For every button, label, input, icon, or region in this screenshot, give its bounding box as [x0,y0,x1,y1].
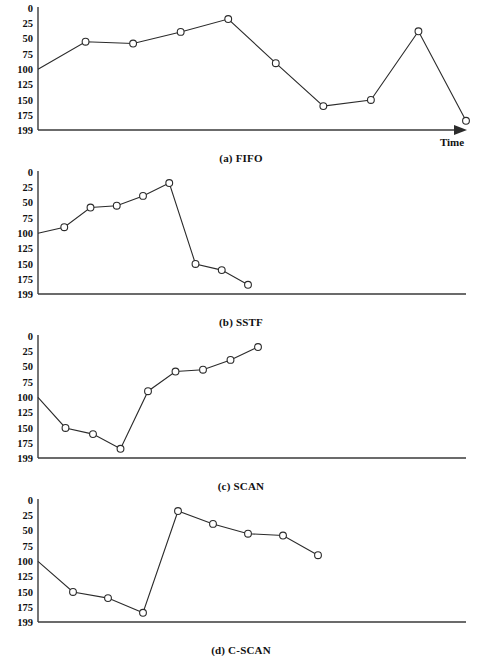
y-tick-label: 0 [28,3,33,14]
y-tick-label: 150 [17,95,33,106]
data-point-marker [192,261,199,268]
data-point-marker [105,595,112,602]
y-tick-label: 175 [17,274,33,285]
y-tick-label: 125 [17,571,33,582]
data-point-marker [272,60,279,67]
data-point-marker [245,530,252,537]
plot-cscan: 0255075100125150175199 [0,492,482,644]
y-tick-label: 100 [17,556,33,567]
y-tick-label: 100 [17,228,33,239]
data-point-marker [200,366,207,373]
data-point-marker [225,16,232,23]
chart-svg-fifo: 0255075100125150175199Time [0,0,482,152]
y-tick-label: 199 [17,289,33,300]
panel-scan: 0255075100125150175199 (c) SCAN [0,328,482,492]
plot-scan: 0255075100125150175199 [0,328,482,480]
y-tick-label: 50 [23,33,34,44]
data-point-marker [177,29,184,36]
y-tick-label: 150 [17,587,33,598]
y-tick-label: 75 [23,213,34,224]
data-point-marker [113,202,120,209]
y-tick-label: 175 [17,438,33,449]
y-tick-label: 50 [23,361,34,372]
data-point-marker [218,267,225,274]
data-point-marker [62,425,69,432]
y-tick-label: 75 [23,49,34,60]
chart-svg-cscan: 0255075100125150175199 [0,492,482,644]
y-tick-label: 0 [28,495,33,506]
data-point-marker [130,40,137,47]
y-tick-label: 199 [17,617,33,628]
y-tick-label: 125 [17,407,33,418]
data-point-marker [70,589,77,596]
series-polyline [38,19,466,121]
y-tick-label: 100 [17,64,33,75]
data-point-marker [117,445,124,452]
data-point-marker [255,344,262,351]
chart-svg-scan: 0255075100125150175199 [0,328,482,480]
data-point-marker [245,281,252,288]
data-point-marker [210,521,217,528]
caption-cscan: (d) C-SCAN [0,644,482,656]
panel-fifo: 0255075100125150175199Time (a) FIFO [0,0,482,164]
data-point-marker [145,388,152,395]
caption-fifo: (a) FIFO [0,152,482,164]
data-point-marker [280,532,287,539]
data-point-marker [367,97,374,104]
data-point-marker [140,609,147,616]
y-tick-label: 125 [17,79,33,90]
time-arrow-icon [454,125,467,135]
y-tick-label: 125 [17,243,33,254]
data-point-marker [140,193,147,200]
y-tick-label: 150 [17,259,33,270]
data-point-marker [175,508,182,515]
data-point-marker [61,224,68,231]
data-point-marker [463,117,470,124]
data-point-marker [315,552,322,559]
y-tick-label: 150 [17,423,33,434]
panel-cscan: 0255075100125150175199 (d) C-SCAN [0,492,482,656]
data-point-marker [415,28,422,35]
y-tick-label: 175 [17,110,33,121]
data-point-marker [90,431,97,438]
y-tick-label: 25 [23,510,34,521]
y-tick-label: 100 [17,392,33,403]
data-point-marker [87,204,94,211]
y-tick-label: 199 [17,453,33,464]
data-point-marker [166,180,173,187]
y-tick-label: 75 [23,377,34,388]
data-point-marker [320,103,327,110]
data-point-marker [172,368,179,375]
plot-fifo: 0255075100125150175199Time [0,0,482,152]
x-axis-label-time: Time [440,136,464,148]
y-tick-label: 0 [28,167,33,178]
y-tick-label: 199 [17,125,33,136]
y-tick-label: 50 [23,525,34,536]
y-tick-label: 25 [23,346,34,357]
caption-sstf: (b) SSTF [0,316,482,328]
y-tick-label: 175 [17,602,33,613]
y-tick-label: 75 [23,541,34,552]
caption-scan: (c) SCAN [0,480,482,492]
panel-sstf: 0255075100125150175199 (b) SSTF [0,164,482,328]
y-tick-label: 50 [23,197,34,208]
plot-sstf: 0255075100125150175199 [0,164,482,316]
series-polyline [38,347,258,449]
data-point-marker [227,357,234,364]
chart-svg-sstf: 0255075100125150175199 [0,164,482,316]
data-point-marker [82,38,89,45]
y-tick-label: 25 [23,182,34,193]
y-tick-label: 25 [23,18,34,29]
y-tick-label: 0 [28,331,33,342]
series-polyline [38,511,318,613]
